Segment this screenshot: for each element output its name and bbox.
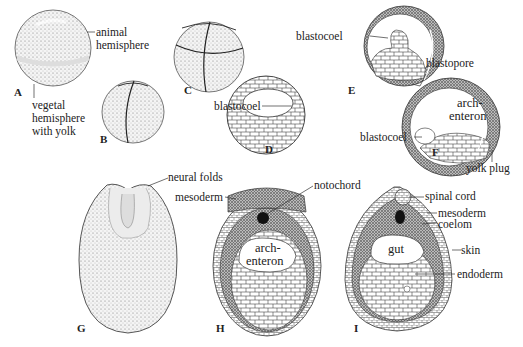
label-archenteron-h-2: enteron bbox=[246, 255, 283, 267]
label-archenteron-f: arch- bbox=[457, 97, 483, 109]
label-animal-hemisphere: animal bbox=[96, 26, 127, 38]
label-blastocoel-e: blastocoel bbox=[296, 30, 343, 42]
label-vegetal-hemisphere: vegetal bbox=[32, 99, 65, 111]
panel-letter-e: E bbox=[348, 84, 355, 96]
label-blastocoel-f: blastocoel bbox=[360, 131, 407, 143]
panel-g-neurula-exterior bbox=[79, 178, 177, 333]
label-skin: skin bbox=[461, 244, 480, 256]
embryo-development-figure: animal hemisphere vegetal hemisphere wit… bbox=[0, 0, 523, 347]
panel-b-two-cell bbox=[102, 81, 164, 143]
label-notochord: notochord bbox=[314, 179, 361, 191]
figure-drawings bbox=[0, 0, 523, 347]
panel-letter-g: G bbox=[77, 322, 86, 334]
label-spinal-cord: spinal cord bbox=[425, 190, 476, 202]
label-gut: gut bbox=[388, 243, 404, 255]
label-vegetal-hemisphere-2: hemisphere bbox=[32, 112, 85, 124]
label-blastopore: blastopore bbox=[426, 57, 474, 69]
panel-letter-h: H bbox=[216, 322, 225, 334]
label-archenteron-f-2: enteron bbox=[449, 110, 486, 122]
label-vegetal-hemisphere-3: with yolk bbox=[32, 125, 76, 137]
label-yolk-plug: yolk plug bbox=[466, 162, 510, 174]
label-mesoderm-h: mesoderm bbox=[175, 191, 223, 203]
label-endoderm: endoderm bbox=[457, 268, 503, 280]
label-animal-hemisphere-2: hemisphere bbox=[96, 39, 149, 51]
panel-letter-b: B bbox=[100, 133, 107, 145]
panel-letter-a: A bbox=[14, 86, 22, 98]
panel-letter-f: F bbox=[432, 146, 439, 158]
panel-letter-c: C bbox=[184, 84, 192, 96]
panel-letter-i: I bbox=[354, 322, 358, 334]
label-blastocoel-d: blastocoel bbox=[214, 100, 261, 112]
panel-a-egg bbox=[15, 10, 95, 98]
label-neural-folds: neural folds bbox=[168, 171, 223, 183]
label-coelom: coelom bbox=[438, 218, 472, 230]
label-archenteron-h: arch- bbox=[255, 242, 281, 254]
panel-c-eight-cell bbox=[174, 22, 244, 92]
panel-e-early-gastrula bbox=[364, 6, 444, 86]
panel-letter-d: D bbox=[265, 143, 273, 155]
